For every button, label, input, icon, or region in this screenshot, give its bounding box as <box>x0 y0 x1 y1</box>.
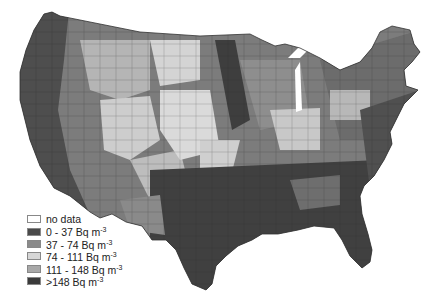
map-legend: no data 0 - 37 Bq m-3 37 - 74 Bq m-3 74 … <box>27 213 122 287</box>
legend-swatch <box>27 240 41 248</box>
legend-swatch <box>27 252 41 260</box>
legend-swatch <box>27 277 41 285</box>
legend-swatch <box>27 215 41 223</box>
legend-swatch <box>27 265 41 273</box>
legend-swatch <box>27 228 41 236</box>
legend-item-over-148: >148 Bq m-3 <box>27 275 122 287</box>
legend-label: >148 Bq m <box>46 276 97 288</box>
